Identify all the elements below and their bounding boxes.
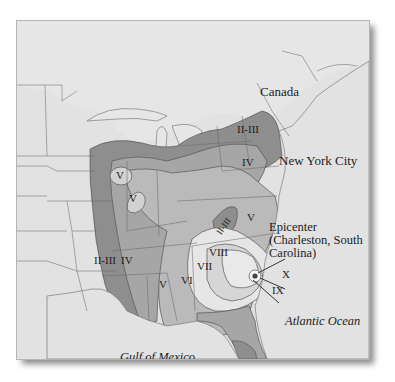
intensity-map: Canada New York City Atlantic Ocean Gulf…: [16, 20, 370, 360]
label-atlantic-ocean: Atlantic Ocean: [285, 315, 360, 328]
label-canada: Canada: [260, 85, 299, 98]
label-gulf-of-mexico: Gulf of Mexico: [120, 351, 195, 360]
zone-label-iv-northeast: IV: [242, 157, 254, 168]
zone-label-v-south: V: [129, 193, 137, 204]
zone-label-vii: VII: [197, 261, 212, 272]
zone-label-ii-iii-west: II-III: [94, 255, 116, 266]
zone-label-ix: IX: [272, 285, 284, 296]
zone-label-x: X: [282, 269, 290, 280]
zone-label-v-virginia: V: [247, 212, 255, 223]
zone-label-ii-iii-northeast: II-III: [237, 124, 259, 135]
map-graphic: [17, 21, 369, 359]
zone-label-v-south-region: V: [159, 279, 167, 290]
zone-label-v-north: V: [116, 170, 124, 181]
zone-label-viii: VIII: [209, 247, 228, 258]
label-epicenter: Epicenter (Charleston, South Carolina): [269, 221, 363, 260]
label-new-york-city: New York City: [279, 154, 357, 167]
zone-label-iv-west: IV: [121, 255, 133, 266]
zone-x-epicenter: [252, 273, 257, 278]
zone-label-vi: VI: [181, 275, 193, 286]
